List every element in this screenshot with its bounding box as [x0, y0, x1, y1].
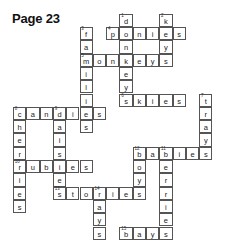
cell-letter: o: [84, 190, 88, 199]
crossword-cell: i: [106, 187, 119, 200]
cell-letter: e: [124, 190, 128, 199]
cell-letter: n: [111, 57, 115, 66]
crossword-cell: e: [186, 147, 199, 160]
cell-letter: i: [152, 30, 154, 39]
cell-letter: y: [98, 216, 102, 225]
cell-letter: d: [124, 17, 128, 26]
cell-letter: l: [85, 83, 87, 92]
cell-letter: e: [137, 57, 141, 66]
cell-letter: a: [97, 203, 101, 212]
clue-number: 15: [121, 225, 126, 233]
cell-letter: n: [44, 110, 48, 119]
cell-letter: a: [57, 123, 61, 132]
crossword-cell: r: [159, 173, 172, 186]
crossword-cell: u: [26, 160, 39, 173]
cell-letter: s: [124, 97, 128, 106]
cell-letter: b: [44, 163, 48, 172]
cell-letter: h: [18, 123, 22, 132]
cell-letter: y: [124, 83, 128, 92]
crossword-cell: e: [119, 187, 132, 200]
clue-number: 12: [134, 145, 139, 153]
cell-letter: e: [164, 163, 168, 172]
crossword-cell: s: [173, 27, 186, 40]
crossword-cell: b12: [133, 147, 146, 160]
cell-letter: e: [71, 163, 75, 172]
cell-letter: a: [137, 230, 141, 239]
crossword-cell: i: [80, 94, 93, 107]
crossword-cell: a: [53, 120, 66, 133]
clue-number: 10: [15, 158, 20, 166]
crossword-cell: f3: [80, 27, 93, 40]
crossword-cell: s: [199, 147, 212, 160]
crossword-cell: s: [80, 120, 93, 133]
crossword-cell: e: [119, 67, 132, 80]
crossword-cell: a: [133, 227, 146, 240]
crossword-cell: e: [66, 160, 79, 173]
cell-letter: e: [164, 216, 168, 225]
cell-letter: t: [205, 97, 207, 106]
crossword-cell: r: [199, 107, 212, 120]
crossword-cell: e: [159, 94, 172, 107]
crossword-cell: n: [106, 54, 119, 67]
crossword-cell: i: [159, 200, 172, 213]
crossword-cell: a: [199, 120, 212, 133]
cell-letter: r: [165, 190, 168, 199]
cell-letter: s: [18, 203, 22, 212]
cell-letter: o: [137, 163, 141, 172]
cell-letter: i: [178, 150, 180, 159]
crossword-cell: o: [119, 27, 132, 40]
cell-letter: d: [57, 110, 61, 119]
cell-letter: f: [85, 30, 87, 39]
cell-letter: s: [58, 150, 62, 159]
crossword-cell: s: [80, 160, 93, 173]
crossword-cell: s: [53, 147, 66, 160]
cell-letter: i: [59, 136, 61, 145]
cell-letter: e: [164, 97, 168, 106]
crossword-cell: k: [133, 94, 146, 107]
cell-letter: a: [84, 43, 88, 52]
crossword-cell: y: [93, 213, 106, 226]
crossword-cell: n: [40, 107, 53, 120]
cell-letter: i: [72, 110, 74, 119]
clue-number: 3: [81, 25, 84, 33]
clue-number: 6: [121, 92, 124, 100]
crossword-cell: k2: [159, 14, 172, 27]
cell-letter: e: [164, 30, 168, 39]
crossword-cell: n: [119, 40, 132, 53]
cell-letter: s: [164, 57, 168, 66]
crossword-cell: s: [93, 107, 106, 120]
cell-letter: r: [205, 110, 208, 119]
crossword-cell: i: [53, 133, 66, 146]
clue-number: 9: [55, 105, 58, 113]
cell-letter: s: [84, 163, 88, 172]
crossword-cell: e: [13, 133, 26, 146]
crossword-cell: a: [93, 200, 106, 213]
crossword-cell: y: [146, 227, 159, 240]
cell-letter: a: [31, 110, 35, 119]
crossword-cell: s: [159, 227, 172, 240]
cell-letter: k: [164, 17, 168, 26]
cell-letter: e: [18, 190, 22, 199]
crossword-cell: t: [66, 187, 79, 200]
clue-number: 2: [161, 12, 164, 20]
clue-number: 11: [161, 145, 166, 153]
cell-letter: n: [137, 30, 141, 39]
cell-letter: a: [204, 123, 208, 132]
clue-number: 5: [81, 52, 84, 60]
crossword-cell: i: [80, 67, 93, 80]
clue-number: 7: [201, 92, 204, 100]
crossword-grid: d1onkeys6k2eysf3am5iliesp4nisoneykiest7r…: [0, 0, 227, 251]
crossword-cell: o: [133, 160, 146, 173]
cell-letter: y: [151, 57, 155, 66]
crossword-cell: h: [13, 120, 26, 133]
cell-letter: i: [85, 97, 87, 106]
cell-letter: k: [137, 97, 141, 106]
cell-letter: a: [151, 150, 155, 159]
crossword-cell: e: [13, 187, 26, 200]
cell-letter: s: [177, 30, 181, 39]
cell-letter: s: [177, 97, 181, 106]
crossword-cell: i: [146, 94, 159, 107]
cell-letter: i: [112, 190, 114, 199]
cell-letter: e: [124, 70, 128, 79]
crossword-cell: y: [199, 133, 212, 146]
